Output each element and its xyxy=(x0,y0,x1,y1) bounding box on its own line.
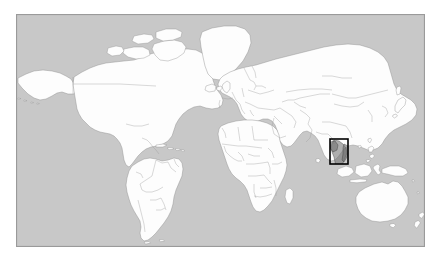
island-sakhalin xyxy=(396,86,401,95)
map-canvas: .land{ fill:#fdfdfd; stroke:#8f8f8f; str… xyxy=(16,14,425,247)
world-locator-map: .land{ fill:#fdfdfd; stroke:#8f8f8f; str… xyxy=(16,14,425,247)
